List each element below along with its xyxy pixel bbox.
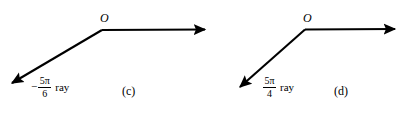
panel-d-ray-label-fraction: 5π 4 — [263, 76, 276, 99]
panel-c-ray-label: − 5π 6 ray — [31, 76, 69, 99]
panel-c-ray-label-word: ray — [52, 82, 69, 93]
panel-d-label: (d) — [334, 85, 348, 97]
panel-c-label: (c) — [122, 85, 135, 97]
panel-c-ray-label-numerator: 5π — [39, 76, 51, 87]
panel-c-ray-label-fraction: 5π 6 — [38, 76, 51, 99]
panel-d-ray-label-word: ray — [277, 82, 294, 93]
panel-c-initial-ray — [102, 30, 205, 31]
figure-root: O − 5π 6 ray (c) O 5π 4 ray (d) — [0, 0, 406, 113]
panel-d-ray-label: 5π 4 ray — [262, 76, 294, 99]
panel-c-vertex-label: O — [100, 12, 109, 24]
panel-d-initial-ray — [305, 29, 395, 30]
panel-c-ray-label-sign: − — [31, 81, 37, 92]
panel-d-vertex-label: O — [303, 12, 312, 24]
panel-d-ray-label-denominator: 4 — [266, 88, 273, 99]
panel-c-ray-label-denominator: 6 — [41, 88, 48, 99]
panel-d-ray-label-numerator: 5π — [263, 76, 275, 87]
